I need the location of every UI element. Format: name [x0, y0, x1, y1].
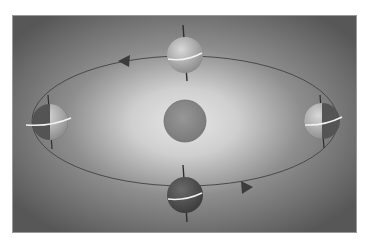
orbit-diagram-svg	[12, 15, 357, 233]
sun	[164, 100, 206, 142]
earth-orbit-diagram	[12, 15, 357, 233]
